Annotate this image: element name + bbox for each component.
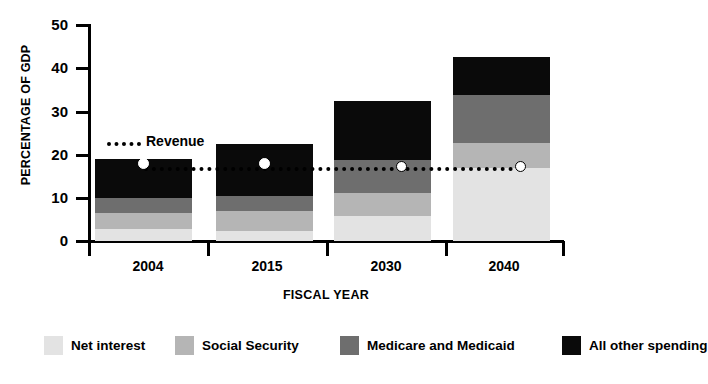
y-axis-line [88,24,91,242]
y-axis-title: PERCENTAGE OF GDP [19,20,33,210]
bar-segment-2004-social-security [95,213,192,229]
y-tick-50 [76,24,89,27]
legend-item-social-security[interactable]: Social Security [175,336,299,355]
bar-segment-2030-medicare-and-medicaid [334,160,431,192]
legend-swatch-medicare-medicaid [340,336,359,355]
legend-swatch-all-other-spending [562,336,581,355]
y-tick-label-30: 30 [34,104,68,119]
y-tick-10 [76,197,89,200]
y-tick-label-0: 0 [34,233,68,248]
legend-swatch-net-interest [44,336,63,355]
plot-area: 50 40 30 20 10 0 PERCENTAGE OF GDP 2004 … [0,0,636,300]
bar-segment-2015-net-interest [216,231,313,241]
bar-segment-2015-medicare-and-medicaid [216,196,313,211]
bar-segment-2030-all-other-spending [334,101,431,161]
y-tick-30 [76,111,89,114]
legend-item-net-interest[interactable]: Net interest [44,336,145,355]
x-tick-label-2040: 2040 [464,258,544,274]
revenue-dotted-line [144,167,521,171]
bar-segment-2004-medicare-and-medicaid [95,198,192,212]
bar-segment-2030-social-security [334,193,431,216]
bar-segment-2040-all-other-spending [453,57,550,95]
y-tick-label-50: 50 [34,17,68,32]
bar-2030[interactable] [334,101,431,242]
bar-segment-2030-net-interest [334,216,431,242]
legend-label-all-other-spending: All other spending [589,338,708,353]
y-tick-40 [76,67,89,70]
bar-2004[interactable] [95,159,192,242]
x-axis-title: FISCAL YEAR [88,288,564,302]
bar-segment-2040-medicare-and-medicaid [453,95,550,143]
y-tick-label-10: 10 [34,190,68,205]
x-tick-label-2004: 2004 [108,258,188,274]
x-tick-2 [326,241,329,256]
legend-item-all-other-spending[interactable]: All other spending [562,336,708,355]
chart-legend: Net interest Social Security Medicare an… [0,330,636,366]
bar-segment-2040-net-interest [453,168,550,242]
x-tick-1 [207,241,210,256]
bar-segment-2015-social-security [216,211,313,231]
legend-item-medicare-medicaid[interactable]: Medicare and Medicaid [340,336,515,355]
bar-2040[interactable] [453,57,550,241]
revenue-label-dotted-lead [107,142,141,146]
bar-segment-2004-net-interest [95,229,192,242]
legend-label-net-interest: Net interest [71,338,145,353]
x-tick-label-2015: 2015 [227,258,307,274]
x-tick-3 [445,241,448,256]
legend-label-medicare-medicaid: Medicare and Medicaid [367,338,515,353]
x-tick-label-2030: 2030 [346,258,426,274]
y-tick-label-20: 20 [34,147,68,162]
y-tick-20 [76,154,89,157]
bar-segment-2040-social-security [453,143,550,167]
legend-swatch-social-security [175,336,194,355]
x-tick-0 [88,241,91,256]
x-tick-4 [562,241,565,256]
revenue-label: Revenue [146,133,204,149]
y-tick-label-40: 40 [34,60,68,75]
legend-label-social-security: Social Security [202,338,299,353]
